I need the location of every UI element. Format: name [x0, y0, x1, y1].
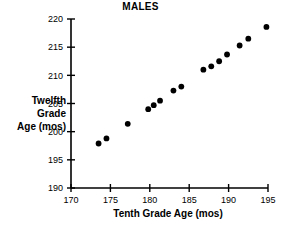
data-point: [216, 58, 222, 64]
x-tick-label: 195: [260, 195, 275, 205]
data-point: [200, 67, 206, 73]
data-point-series: [96, 24, 270, 146]
data-point: [208, 63, 214, 69]
data-point: [224, 52, 230, 58]
data-point: [237, 43, 243, 49]
y-tick-label: 200: [48, 127, 63, 137]
x-tick-label: 190: [221, 195, 236, 205]
data-point: [96, 141, 102, 147]
y-tick-label: 210: [48, 71, 63, 81]
plot-area: 190195200205210215220 170175180185190195: [0, 0, 281, 225]
y-tick-label: 205: [48, 99, 63, 109]
scatter-chart: MALES Twelfth Grade Age (mos) Tenth Grad…: [0, 0, 281, 225]
data-point: [178, 84, 184, 90]
y-tick-label: 190: [48, 183, 63, 193]
data-point: [157, 98, 163, 104]
data-point: [171, 88, 177, 94]
x-tick-label: 175: [103, 195, 118, 205]
data-point: [104, 136, 110, 142]
y-tick-label: 215: [48, 42, 63, 52]
x-tick-label: 180: [142, 195, 157, 205]
x-tick-label: 170: [63, 195, 78, 205]
data-point: [125, 121, 131, 127]
data-point: [264, 24, 270, 30]
data-point: [151, 102, 157, 108]
data-point: [245, 36, 251, 42]
x-axis-ticks: 170175180185190195: [63, 184, 275, 205]
y-tick-label: 195: [48, 155, 63, 165]
data-point: [145, 106, 151, 112]
x-tick-label: 185: [182, 195, 197, 205]
y-tick-label: 220: [48, 14, 63, 24]
